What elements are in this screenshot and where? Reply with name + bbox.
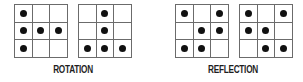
grid-cell bbox=[114, 5, 132, 23]
dot-icon bbox=[20, 10, 27, 17]
dot-icon bbox=[181, 45, 188, 52]
grid-cell bbox=[194, 40, 212, 58]
dot-icon bbox=[198, 45, 205, 52]
grid-cell bbox=[194, 5, 212, 23]
rotation-label: ROTATION bbox=[40, 64, 106, 75]
dot-icon bbox=[262, 27, 269, 34]
dot-icon bbox=[37, 27, 44, 34]
grid-cell bbox=[97, 40, 115, 58]
dot-icon bbox=[280, 45, 287, 52]
grid-cell bbox=[50, 23, 68, 41]
grid-cell bbox=[240, 5, 258, 23]
dot-icon bbox=[101, 27, 108, 34]
grid-cell bbox=[176, 40, 194, 58]
rotation-grid-2 bbox=[78, 4, 132, 58]
grid-cell bbox=[211, 23, 229, 41]
grid-cell bbox=[15, 5, 33, 23]
dot-icon bbox=[280, 10, 287, 17]
reflection-grid-2 bbox=[239, 4, 293, 58]
grid-cell bbox=[79, 23, 97, 41]
grid-cell bbox=[33, 40, 51, 58]
grid-cell bbox=[97, 5, 115, 23]
dot-icon bbox=[84, 45, 91, 52]
grid-cell bbox=[15, 40, 33, 58]
grid-cell bbox=[33, 5, 51, 23]
dot-icon bbox=[101, 45, 108, 52]
dot-icon bbox=[119, 45, 126, 52]
dot-icon bbox=[245, 10, 252, 17]
grid-cell bbox=[114, 23, 132, 41]
grid-cell bbox=[79, 40, 97, 58]
grid-cell bbox=[240, 23, 258, 41]
grid-cell bbox=[211, 5, 229, 23]
grid-cell bbox=[258, 40, 276, 58]
grid-cell bbox=[97, 23, 115, 41]
dot-icon bbox=[55, 27, 62, 34]
grid-cell bbox=[194, 23, 212, 41]
grid-cell bbox=[240, 40, 258, 58]
reflection-label: REFLECTION bbox=[200, 64, 266, 75]
grid-cell bbox=[176, 5, 194, 23]
grid-cell bbox=[258, 23, 276, 41]
dot-icon bbox=[20, 45, 27, 52]
grid-cell bbox=[275, 23, 293, 41]
dot-icon bbox=[181, 10, 188, 17]
grid-cell bbox=[50, 5, 68, 23]
dot-icon bbox=[20, 27, 27, 34]
grid-cell bbox=[176, 23, 194, 41]
dot-icon bbox=[216, 27, 223, 34]
dot-icon bbox=[101, 10, 108, 17]
grid-cell bbox=[33, 23, 51, 41]
dot-icon bbox=[198, 27, 205, 34]
grid-cell bbox=[15, 23, 33, 41]
grid-cell bbox=[114, 40, 132, 58]
grid-cell bbox=[50, 40, 68, 58]
grid-cell bbox=[79, 5, 97, 23]
grid-cell bbox=[275, 5, 293, 23]
rotation-grid-1 bbox=[14, 4, 68, 58]
grid-cell bbox=[258, 5, 276, 23]
grid-cell bbox=[211, 40, 229, 58]
dot-icon bbox=[245, 27, 252, 34]
dot-icon bbox=[262, 45, 269, 52]
reflection-grid-1 bbox=[175, 4, 229, 58]
dot-icon bbox=[216, 10, 223, 17]
grid-cell bbox=[275, 40, 293, 58]
